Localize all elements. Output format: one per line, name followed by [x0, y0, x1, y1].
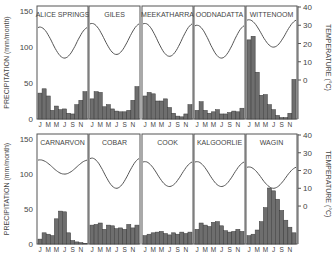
- precip-bar: [272, 110, 276, 119]
- precip-bar: [207, 113, 211, 119]
- precip-bar: [42, 89, 46, 119]
- precip-bar: [172, 233, 176, 244]
- month-label: J: [168, 246, 171, 253]
- temp-tick-label: 30: [303, 149, 312, 158]
- month-label: J: [247, 246, 250, 253]
- precip-bar: [63, 109, 67, 119]
- precip-bar: [159, 101, 163, 119]
- precip-bar: [102, 107, 106, 119]
- month-label: S: [71, 246, 76, 253]
- precip-bar: [135, 225, 139, 244]
- precip-bar: [58, 110, 62, 119]
- month-label: J: [195, 121, 198, 128]
- precip-bar: [38, 93, 42, 119]
- precip-bar: [151, 94, 155, 119]
- station-name: GILES: [104, 11, 125, 18]
- precip-bar: [267, 188, 271, 244]
- month-label: N: [79, 246, 84, 253]
- precip-bar: [67, 113, 71, 119]
- precip-bar: [46, 234, 50, 244]
- station-name: ALICE SPRINGS: [36, 11, 90, 18]
- precip-bar: [147, 92, 151, 119]
- precip-bar: [247, 236, 251, 244]
- precip-bar: [199, 223, 203, 244]
- month-label: S: [176, 121, 181, 128]
- month-label: M: [211, 121, 216, 128]
- panel-oodnadatta: OODNADATTAJMMJSN: [194, 6, 245, 128]
- precip-bar: [203, 110, 207, 119]
- month-label: S: [280, 121, 285, 128]
- temp-tick-label: 40: [303, 3, 312, 12]
- precip-bar: [240, 231, 244, 244]
- month-label: M: [97, 246, 102, 253]
- precip-bar: [143, 96, 147, 119]
- precip-bar: [50, 236, 54, 244]
- precip-bar: [42, 233, 46, 244]
- temp-tick-label: 10: [303, 58, 312, 67]
- precip-bar: [232, 111, 236, 119]
- left-axis-row-0: 050100150PRECIPITATION (mm/month): [3, 7, 34, 124]
- month-label: N: [288, 246, 293, 253]
- precip-bar: [236, 229, 240, 244]
- precip-bar: [106, 225, 110, 244]
- precip-bar: [288, 227, 292, 244]
- station-name: KALGOORLIE: [197, 139, 242, 146]
- station-name: CARNARVON: [40, 139, 85, 146]
- month-label: S: [280, 246, 285, 253]
- precip-bar: [38, 239, 42, 244]
- precip-bar: [143, 236, 147, 244]
- month-label: M: [254, 121, 259, 128]
- precip-bar: [263, 208, 267, 244]
- precip-bar: [98, 223, 102, 244]
- right-axis-row-1: 010203040TEMPERATURE (°C): [298, 131, 332, 244]
- month-label: J: [168, 121, 171, 128]
- month-label: M: [211, 246, 216, 253]
- right-axis-row-0: 010203040TEMPERATURE (°C): [298, 3, 332, 119]
- month-label: S: [71, 121, 76, 128]
- precip-bar: [71, 241, 75, 244]
- month-label: J: [115, 121, 118, 128]
- precip-bar: [272, 191, 276, 244]
- station-name: MEEKATHARRA: [141, 11, 194, 18]
- precip-bar: [79, 243, 83, 244]
- precip-bar: [247, 40, 251, 119]
- precip-bar: [292, 233, 296, 244]
- precip-bar: [163, 234, 167, 244]
- precip-bar: [163, 99, 167, 119]
- panel-carnarvon: CARNARVONJMMJSN: [37, 134, 88, 253]
- precip-tick-label: 100: [20, 170, 34, 179]
- month-label: S: [123, 121, 128, 128]
- precip-tick-label: 150: [20, 7, 34, 16]
- month-label: M: [159, 246, 164, 253]
- precip-bar: [207, 227, 211, 244]
- month-label: M: [45, 121, 50, 128]
- precip-bar: [240, 108, 244, 119]
- panel-wagin: WAGINJMMJSN: [246, 134, 297, 253]
- precip-bar: [236, 112, 240, 119]
- precip-bar: [180, 232, 184, 244]
- precip-bar: [90, 99, 94, 119]
- month-label: M: [202, 121, 207, 128]
- month-label: J: [63, 121, 66, 128]
- month-label: S: [228, 121, 233, 128]
- precip-bar: [180, 117, 184, 119]
- month-label: J: [220, 246, 223, 253]
- precip-bar: [127, 110, 131, 119]
- precip-bar: [215, 222, 219, 244]
- precip-bar: [255, 72, 259, 119]
- precip-bar: [188, 105, 192, 119]
- temp-tick-label: 10: [303, 184, 312, 193]
- month-label: J: [90, 246, 93, 253]
- precip-axis-title: PRECIPITATION (mm/month): [3, 143, 11, 235]
- month-label: J: [63, 246, 66, 253]
- precip-bar: [176, 234, 180, 244]
- precip-bar: [110, 109, 114, 119]
- month-label: M: [202, 246, 207, 253]
- month-label: M: [150, 121, 155, 128]
- precip-bar: [110, 226, 114, 244]
- temp-tick-label: 0: [303, 202, 308, 211]
- precip-bar: [94, 224, 98, 244]
- precip-bar: [135, 87, 139, 119]
- precip-tick-label: 50: [24, 79, 33, 88]
- precip-bar: [215, 110, 219, 119]
